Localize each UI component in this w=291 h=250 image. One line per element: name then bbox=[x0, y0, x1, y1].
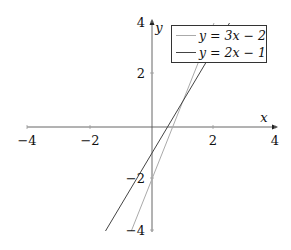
legend-item: y = 2x − 1 bbox=[176, 44, 266, 61]
x-tick-label: 2 bbox=[209, 133, 217, 148]
legend-swatch-light-icon bbox=[176, 35, 196, 36]
x-tick-label: 4 bbox=[271, 133, 279, 148]
y-tick-label: −4 bbox=[126, 223, 145, 238]
x-axis-label: x bbox=[260, 110, 268, 125]
y-tick-label: 2 bbox=[137, 66, 145, 81]
chart-legend: y = 3x − 2 y = 2x − 1 bbox=[171, 25, 267, 63]
legend-swatch-dark-icon bbox=[176, 52, 196, 53]
x-tick-label: −4 bbox=[17, 133, 36, 148]
x-tick-label: −2 bbox=[80, 133, 99, 148]
legend-label: y = 2x − 1 bbox=[199, 45, 266, 60]
y-tick-label: −2 bbox=[126, 171, 145, 186]
legend-item: y = 3x − 2 bbox=[176, 27, 266, 44]
legend-label: y = 3x − 2 bbox=[199, 28, 266, 43]
y-tick-label: 4 bbox=[137, 15, 145, 30]
y-axis-label: y bbox=[154, 20, 163, 35]
